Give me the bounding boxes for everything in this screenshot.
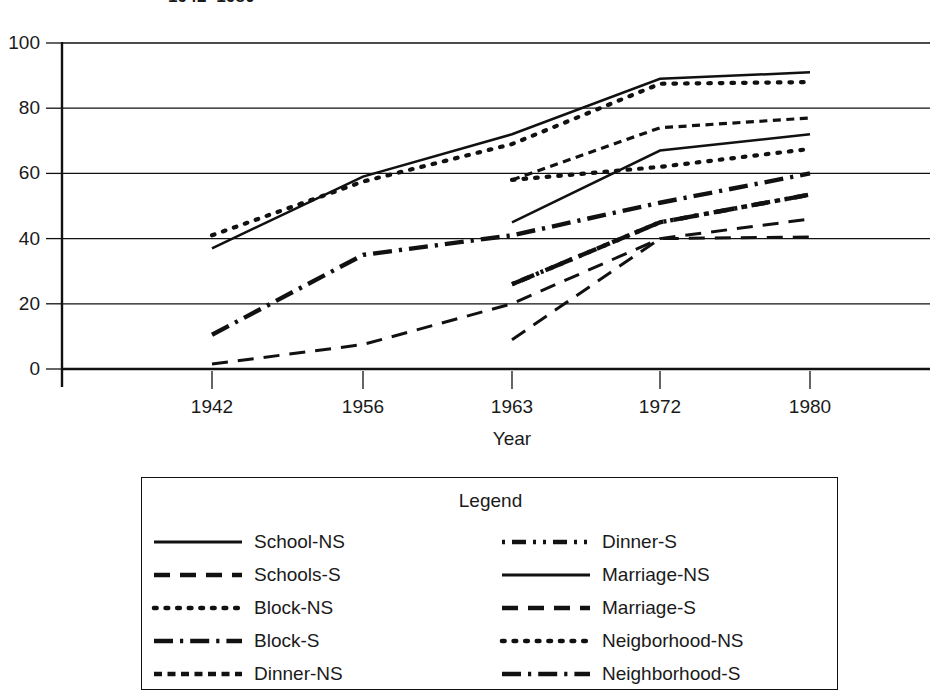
legend-item-label: Dinner-S [602, 532, 677, 551]
legend-item[interactable]: Dinner-NS [142, 657, 490, 690]
legend-item-label: Dinner-NS [254, 664, 343, 683]
legend-line-sample-dashdot [142, 634, 254, 648]
legend-item-label: Neighborhood-S [602, 664, 740, 683]
legend-line-sample-dashed [490, 601, 602, 615]
legend-line-sample-finedash [142, 667, 254, 681]
x-axis-title: Year [452, 429, 572, 448]
legend-item-label: Block-NS [254, 598, 333, 617]
chart-figure: 1942–1980 020406080100 19421956196319721… [0, 0, 935, 690]
x-tick-label: 1972 [615, 397, 705, 416]
y-tick-label: 20 [0, 294, 40, 313]
plot-area: 020406080100 19421956196319721980 Year [0, 0, 935, 440]
plot-svg [0, 0, 935, 440]
legend-line-sample-dashdotdot [490, 535, 602, 549]
x-tick-label: 1980 [765, 397, 855, 416]
legend-item[interactable]: School-NS [142, 525, 490, 558]
series-line-marriage-ns [512, 134, 810, 222]
legend-item-label: Neigborhood-NS [602, 631, 744, 650]
x-tick-label: 1942 [167, 397, 257, 416]
series-line-marriage-s [512, 237, 810, 340]
legend-item[interactable]: Marriage-S [490, 591, 838, 624]
legend-column-right: Dinner-SMarriage-NSMarriage-SNeigborhood… [490, 525, 838, 690]
legend-item[interactable]: Schools-S [142, 558, 490, 591]
legend-item[interactable]: Block-S [142, 624, 490, 657]
legend-item-label: Block-S [254, 631, 319, 650]
legend-item[interactable]: Dinner-S [490, 525, 838, 558]
legend-columns: School-NSSchools-SBlock-NSBlock-SDinner-… [142, 525, 839, 690]
x-tick-label: 1963 [467, 397, 557, 416]
legend-item[interactable]: Neigborhood-NS [490, 624, 838, 657]
y-tick-label: 60 [0, 163, 40, 182]
legend-line-sample-dotted [490, 634, 602, 648]
data-series [212, 72, 810, 364]
legend-line-sample-solid [490, 568, 602, 582]
gridlines [62, 43, 930, 369]
series-line-schools-s [212, 219, 810, 364]
legend-item-label: Marriage-NS [602, 565, 710, 584]
legend-column-left: School-NSSchools-SBlock-NSBlock-SDinner-… [142, 525, 490, 690]
y-tick-label: 0 [0, 359, 40, 378]
legend-line-sample-dotted [142, 601, 254, 615]
legend-item-label: Schools-S [254, 565, 341, 584]
legend-line-sample-dashdot [490, 667, 602, 681]
legend-item[interactable]: Marriage-NS [490, 558, 838, 591]
legend-item[interactable]: Block-NS [142, 591, 490, 624]
legend-item-label: Marriage-S [602, 598, 696, 617]
legend-title: Legend [142, 490, 839, 512]
y-tick-label: 40 [0, 229, 40, 248]
legend: Legend School-NSSchools-SBlock-NSBlock-S… [141, 477, 838, 690]
y-tick-label: 100 [0, 33, 40, 52]
y-tick-label: 80 [0, 98, 40, 117]
legend-line-sample-dashed [142, 568, 254, 582]
legend-item-label: School-NS [254, 532, 345, 551]
series-line-block-s [212, 173, 810, 334]
legend-line-sample-solid [142, 535, 254, 549]
x-tick-label: 1956 [318, 397, 408, 416]
legend-item[interactable]: Neighborhood-S [490, 657, 838, 690]
